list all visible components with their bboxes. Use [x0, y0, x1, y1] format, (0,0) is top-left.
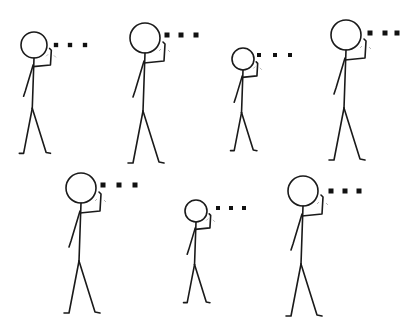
- left-arm: [24, 65, 34, 96]
- ellipsis-dot-icon: [368, 31, 373, 36]
- ellipsis-dot-icon: [117, 183, 122, 188]
- ellipsis-dot-icon: [68, 43, 72, 47]
- ellipsis-dot-icon: [179, 33, 184, 38]
- right-leg: [242, 113, 257, 151]
- ellipsis-dot-icon: [273, 53, 277, 57]
- ellipsis-dot-icon: [133, 183, 138, 188]
- stick-figure-6: [184, 200, 246, 303]
- stick-figure-diagram: [0, 0, 415, 324]
- left-leg: [19, 108, 32, 153]
- ellipsis-dot-icon: [194, 33, 199, 38]
- stick-figure-7: [286, 176, 362, 316]
- ellipsis-dot-icon: [288, 53, 292, 57]
- stick-figure-5: [64, 173, 138, 313]
- left-arm: [187, 228, 195, 254]
- right-leg: [344, 108, 365, 160]
- ellipsis-dot-icon: [54, 43, 58, 47]
- ellipsis-dot-icon: [216, 206, 220, 210]
- left-leg: [128, 111, 143, 163]
- ellipsis-dot-icon: [343, 189, 348, 194]
- right-leg: [143, 111, 164, 163]
- ellipsis-dot-icon: [229, 206, 233, 210]
- left-leg: [184, 265, 195, 303]
- left-leg: [329, 108, 344, 160]
- head-icon: [185, 200, 207, 222]
- head-icon: [130, 23, 160, 53]
- ellipsis-dot-icon: [383, 31, 388, 36]
- left-arm: [234, 76, 242, 102]
- left-arm: [334, 58, 345, 94]
- stick-figure-4: [329, 20, 400, 160]
- right-leg: [195, 265, 210, 303]
- stick-figure-3: [231, 48, 292, 151]
- right-leg: [79, 261, 100, 313]
- left-leg: [64, 261, 79, 313]
- head-icon: [21, 32, 47, 58]
- ellipsis-dot-icon: [329, 189, 334, 194]
- head-icon: [331, 20, 361, 50]
- left-leg: [286, 264, 301, 316]
- left-arm: [69, 211, 80, 247]
- ellipsis-dot-icon: [242, 206, 246, 210]
- head-icon: [66, 173, 96, 203]
- ellipsis-dot-icon: [101, 183, 106, 188]
- figures-svg: [0, 0, 415, 324]
- left-leg: [231, 113, 242, 151]
- ellipsis-dot-icon: [395, 31, 400, 36]
- head-icon: [288, 176, 318, 206]
- ellipsis-dot-icon: [257, 53, 261, 57]
- stick-figure-2: [128, 23, 199, 163]
- left-arm: [133, 61, 144, 97]
- ellipsis-dot-icon: [83, 43, 87, 47]
- head-icon: [232, 48, 254, 70]
- stick-figure-1: [19, 32, 87, 153]
- right-leg: [32, 108, 50, 153]
- right-leg: [301, 264, 322, 316]
- left-arm: [291, 214, 302, 250]
- ellipsis-dot-icon: [165, 33, 170, 38]
- ellipsis-dot-icon: [357, 189, 362, 194]
